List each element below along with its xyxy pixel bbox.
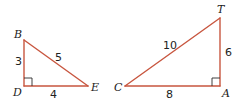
side-length-ct: 10 — [163, 39, 177, 52]
side-ct — [125, 18, 220, 86]
side-length-de: 4 — [50, 88, 57, 101]
side-length-be: 5 — [55, 51, 62, 64]
vertex-label-t: T — [217, 3, 226, 16]
vertex-label-d: D — [12, 86, 22, 99]
side-length-bd: 3 — [15, 55, 22, 68]
side-length-at: 6 — [225, 46, 232, 59]
vertex-label-e: E — [90, 81, 99, 94]
vertex-label-b: B — [13, 28, 22, 41]
similar-triangles-diagram: B D E 3 4 5 C A T 8 6 10 — [0, 0, 239, 102]
right-angle-marker-a — [212, 78, 220, 86]
side-length-ca: 8 — [166, 88, 173, 101]
vertex-label-a: A — [221, 87, 230, 100]
right-angle-marker-d — [24, 78, 32, 86]
triangle-cat: C A T 8 6 10 — [114, 3, 232, 101]
triangle-bde: B D E 3 4 5 — [12, 28, 99, 101]
vertex-label-c: C — [114, 81, 123, 94]
